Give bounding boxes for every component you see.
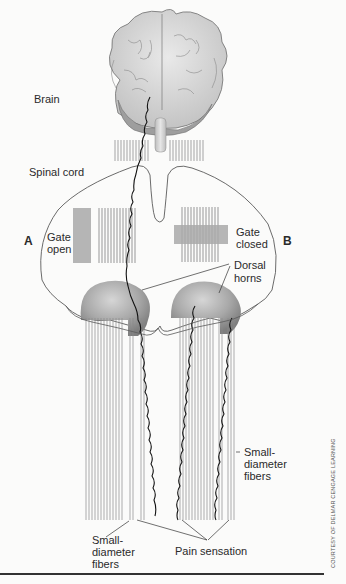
gate-closed-bar xyxy=(174,225,228,244)
dorsal-horn-left xyxy=(81,281,150,336)
pain-fiber-right-2 xyxy=(215,318,232,520)
label-pain-sensation: Pain sensation xyxy=(175,545,247,558)
label-side-a: A xyxy=(24,235,33,248)
gate-open-bar xyxy=(73,208,91,263)
image-credit: COURTESY OF DELMAR CENGAGE LEARNING xyxy=(330,438,336,568)
label-dorsal-horns-line2: horns xyxy=(234,272,262,285)
label-small-fibers-left-line3: fibers xyxy=(92,558,119,571)
upper-fiber-bundle-left xyxy=(115,140,148,161)
label-gate-open-line2: open xyxy=(47,243,71,256)
label-dorsal-horns-line1: Dorsal xyxy=(234,259,266,272)
brain-icon xyxy=(109,9,227,152)
label-small-fibers-right-line3: fibers xyxy=(244,470,271,483)
lower-fiber-bundle-right xyxy=(180,318,234,520)
gate-control-diagram: Brain Spinal cord A B Gate open Gate clo… xyxy=(0,0,346,584)
lower-fiber-bundle-left xyxy=(86,318,144,520)
label-brain: Brain xyxy=(34,93,60,106)
upper-fiber-bundle-right xyxy=(170,140,203,161)
label-gate-closed-line2: closed xyxy=(236,238,268,251)
diagram-artwork xyxy=(0,0,346,584)
label-spinal-cord: Spinal cord xyxy=(29,166,84,179)
label-side-b: B xyxy=(283,235,292,248)
bottom-rule xyxy=(0,573,324,575)
